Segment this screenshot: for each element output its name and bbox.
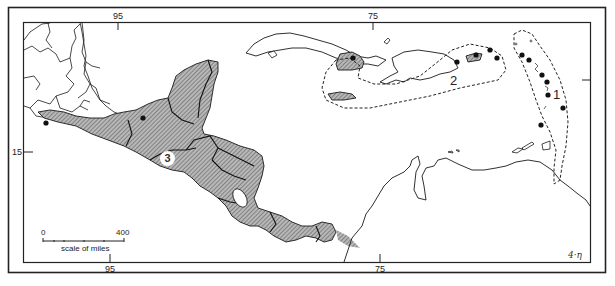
scale-end-label: 400	[116, 229, 129, 237]
mexico-outline	[24, 22, 166, 118]
longitude-label-top-95: 95	[113, 12, 123, 21]
cuba-hatched-east	[336, 52, 364, 70]
south-america-coast	[344, 156, 590, 262]
scale-bar	[43, 238, 124, 242]
abc-islands	[448, 141, 550, 153]
region-label-3: 3	[160, 151, 175, 166]
scale-start-label: 0	[41, 229, 45, 237]
region-label-1: 1	[553, 88, 560, 101]
scale-caption: scale of miles	[61, 245, 109, 253]
latitude-label-15: 15	[12, 148, 22, 157]
longitude-label-top-75: 75	[368, 12, 378, 21]
central-america-land	[38, 60, 336, 242]
cuba	[246, 33, 386, 66]
longitude-label-bottom-75: 75	[375, 265, 385, 274]
bahamas-island	[384, 38, 390, 44]
artist-signature: 4·η	[568, 250, 582, 260]
longitude-label-bottom-95: 95	[105, 265, 115, 274]
region-label-2: 2	[450, 74, 457, 87]
jamaica	[328, 92, 356, 100]
